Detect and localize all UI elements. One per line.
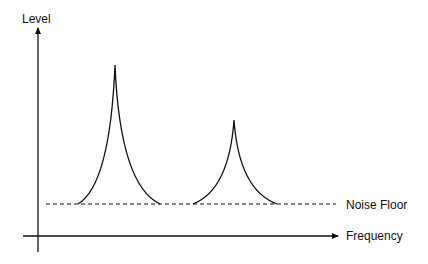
y-axis-label: Level (22, 12, 51, 26)
spectrum-diagram (0, 0, 428, 264)
x-axis-label: Frequency (346, 229, 403, 243)
peak-1 (78, 65, 160, 204)
noise-floor-label: Noise Floor (346, 198, 407, 212)
peak-2 (193, 120, 277, 204)
